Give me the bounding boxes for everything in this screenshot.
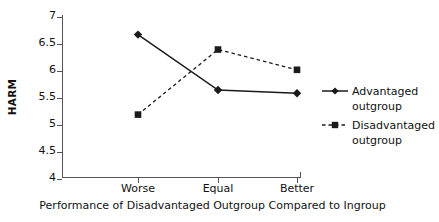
data-point	[215, 46, 222, 53]
legend-label-advantaged-line1: Advantaged	[352, 85, 418, 98]
series-line-advantaged	[138, 35, 297, 94]
series-markers-disadvantaged	[135, 46, 301, 118]
data-point	[294, 67, 301, 74]
data-point	[135, 111, 142, 118]
legend-label-disadvantaged-line2: outgroup	[352, 134, 402, 147]
legend-item-advantaged: Advantagedoutgroup	[322, 84, 439, 114]
chart-legend: Advantagedoutgroup Disadvantagedoutgroup	[322, 84, 439, 152]
data-point	[293, 89, 301, 97]
legend-label-advantaged: Advantagedoutgroup	[352, 84, 439, 114]
legend-label-disadvantaged-line1: Disadvantaged	[352, 119, 435, 132]
legend-sample-disadvantaged-icon	[322, 119, 348, 131]
x-axis-label: Performance of Disadvantaged Outgroup Co…	[0, 199, 425, 212]
series-line-disadvantaged	[138, 50, 297, 115]
legend-label-disadvantaged: Disadvantagedoutgroup	[352, 118, 439, 148]
legend-label-advantaged-line2: outgroup	[352, 100, 402, 113]
series-disadvantaged-outgroup	[135, 46, 301, 118]
legend-item-disadvantaged: Disadvantagedoutgroup	[322, 118, 439, 148]
legend-sample-advantaged-icon	[322, 85, 348, 97]
